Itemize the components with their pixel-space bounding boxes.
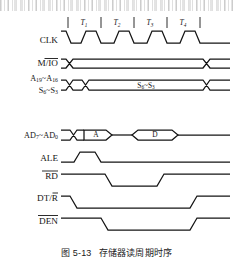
waveform-ad-bus-left — [61, 130, 84, 140]
signal-label-rd: RD — [42, 171, 58, 181]
signal-label-rd-text: RD — [45, 171, 58, 181]
figure-caption-title: 存储器读周期时序 — [99, 248, 173, 258]
figure-caption: 图 5-13存储器读周期时序 — [0, 246, 233, 259]
timing-waveform-canvas: T1 T2 T3 T4 CLK M/IO A19~A16 S6~S3 S6~S3… — [0, 0, 233, 246]
signal-label-ad7-ad0: AD7~AD0 — [24, 131, 58, 140]
waveform-clk — [61, 31, 230, 43]
signal-label-dt-r-text: DT/R — [37, 193, 59, 203]
signal-label-m-io: M/IO — [38, 58, 59, 68]
cycle-marker-group: T1 T2 T3 T4 — [68, 17, 200, 28]
bus-content-address-label: A — [93, 130, 99, 139]
scan-artifact-band — [0, 0, 233, 11]
bus-content-status-label: S6~S3 — [137, 81, 155, 90]
waveform-rd — [61, 174, 230, 186]
signal-label-m-io-text: M/IO — [38, 58, 59, 68]
waveform-m-io — [61, 59, 230, 68]
signal-label-den-text: DEN — [39, 216, 58, 226]
signal-label-ale: ALE — [40, 153, 58, 163]
cycle-label-t1: T1 — [81, 18, 88, 28]
signal-label-a19-a16: A19~A16 — [30, 74, 58, 83]
signal-label-den: DEN — [38, 216, 58, 227]
bus-content-data-label: D — [152, 130, 158, 139]
cycle-label-t4: T4 — [180, 18, 187, 28]
waveform-den — [61, 218, 230, 230]
signal-label-s6-s3: S6~S3 — [39, 86, 58, 95]
waveform-dt-r — [61, 196, 230, 208]
signal-label-clk: CLK — [40, 35, 59, 45]
figure-caption-number: 图 5-13 — [61, 248, 92, 258]
waveform-ale — [61, 152, 230, 162]
timing-diagram-figure: T1 T2 T3 T4 CLK M/IO A19~A16 S6~S3 S6~S3… — [0, 0, 233, 269]
signal-label-dt-r: DT/R — [37, 193, 59, 203]
cycle-label-t3: T3 — [147, 18, 154, 28]
cycle-label-t2: T2 — [114, 18, 121, 28]
